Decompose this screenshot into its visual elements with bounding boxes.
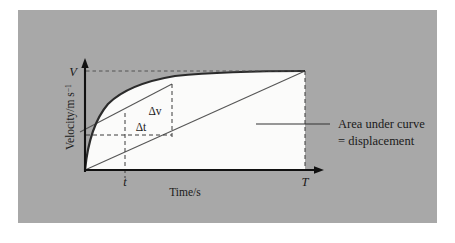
x-tick-label-t: t bbox=[123, 175, 127, 189]
y-axis-label: Velocity/m s−1 bbox=[64, 84, 78, 150]
x-axis-arrowhead bbox=[314, 166, 324, 173]
delta-t-label: Δt bbox=[136, 121, 147, 133]
x-axis-label: Time/s bbox=[169, 186, 201, 198]
area-note-line-1: Area under curve bbox=[338, 117, 425, 131]
delta-v-label: Δv bbox=[148, 105, 161, 117]
y-axis-label-text: Velocity/m s bbox=[64, 92, 77, 150]
y-axis-arrowhead bbox=[81, 58, 88, 68]
y-axis-label-exponent: −1 bbox=[64, 84, 73, 92]
velocity-time-graph: Velocity/m s−1 V t T Time/s Δv Δt Area u… bbox=[0, 0, 455, 243]
area-note-line-2: = displacement bbox=[338, 134, 415, 148]
x-tick-label-T: T bbox=[302, 175, 310, 189]
svg-text:Velocity/m s−1: Velocity/m s−1 bbox=[64, 84, 78, 150]
y-tick-label-V: V bbox=[69, 65, 78, 79]
